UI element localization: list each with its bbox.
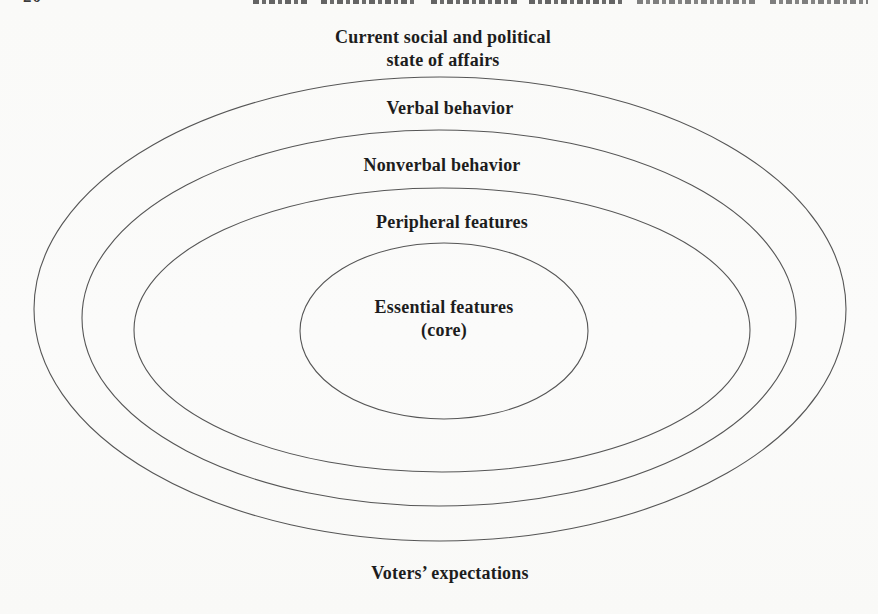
- label-verbal-behavior: Verbal behavior: [387, 97, 514, 120]
- label-peripheral-features: Peripheral features: [376, 211, 528, 234]
- top-caption-line1: Current social and political: [335, 26, 551, 49]
- bottom-caption: Voters’ expectations: [371, 562, 528, 585]
- core-label-line2: (core): [375, 319, 514, 342]
- top-caption-line2: state of affairs: [335, 49, 551, 72]
- label-nonverbal-behavior: Nonverbal behavior: [363, 154, 520, 177]
- scanned-book-page: 20 Current social and political state of…: [0, 0, 878, 614]
- label-essential-features-core: Essential features (core): [375, 296, 514, 342]
- top-caption: Current social and political state of af…: [335, 26, 551, 72]
- core-label-line1: Essential features: [375, 296, 514, 319]
